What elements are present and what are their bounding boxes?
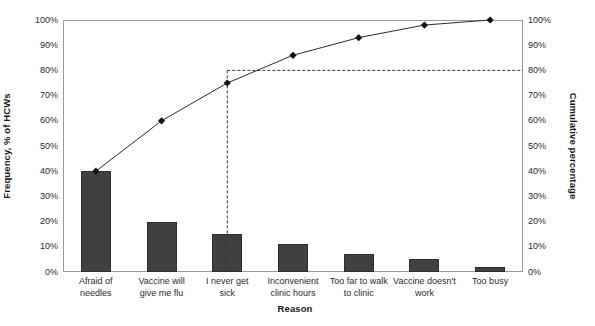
y-axis-right-tick-100%: 100% [528,15,568,26]
bar [475,267,505,272]
y-axis-left-tick-90%: 90% [18,40,58,51]
y-axis-right-tick-90%: 90% [528,40,568,51]
y-axis-left-tick-30%: 30% [18,191,58,202]
bar [344,254,374,272]
bar [212,234,242,272]
y-axis-left-tick-20%: 20% [18,216,58,227]
y-axis-right-tick-50%: 50% [528,141,568,152]
pareto-chart: Frequency, % of HCWs Cumulative percenta… [0,0,595,326]
y-axis-left-tick-100%: 100% [18,15,58,26]
x-axis-category-label: Vaccine doesn't work [392,276,458,299]
y-axis-left-tick-40%: 40% [18,166,58,177]
y-axis-right-title: Cumulative percentage [566,20,580,272]
y-axis-right-tick-40%: 40% [528,166,568,177]
x-axis-category-label: Vaccine will give me flu [129,276,195,299]
y-axis-left-title: Frequency, % of HCWs [0,20,14,272]
x-axis-category-label: I never get sick [194,276,260,299]
y-axis-left-tick-0%: 0% [18,267,58,278]
bar [81,171,111,272]
y-axis-right-tick-20%: 20% [528,216,568,227]
y-axis-right-tick-0%: 0% [528,267,568,278]
x-axis-title: Reason [255,303,335,314]
plot-area [63,20,523,272]
y-axis-right-tick-30%: 30% [528,191,568,202]
x-axis-category-label: Too far to walk to clinic [326,276,392,299]
y-axis-right-tick-70%: 70% [528,90,568,101]
x-axis-category-label: Too busy [457,276,523,288]
bar [409,259,439,272]
bar [147,222,177,272]
y-axis-left-tick-70%: 70% [18,90,58,101]
y-axis-right-tick-10%: 10% [528,241,568,252]
y-axis-left-tick-80%: 80% [18,65,58,76]
x-axis-category-label: Afraid of needles [63,276,129,299]
y-axis-right-tick-80%: 80% [528,65,568,76]
bar [278,244,308,272]
y-axis-right-tick-60%: 60% [528,115,568,126]
y-axis-left-tick-60%: 60% [18,115,58,126]
y-axis-left-tick-50%: 50% [18,141,58,152]
x-axis-category-label: Inconvenient clinic hours [260,276,326,299]
y-axis-left-tick-10%: 10% [18,241,58,252]
